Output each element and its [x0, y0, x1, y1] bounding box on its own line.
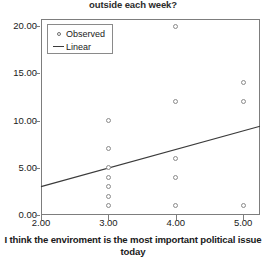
legend-label-linear: Linear — [66, 42, 91, 52]
x-axis-title: I think the enviroment is the most impor… — [2, 234, 264, 258]
legend-item-linear: Linear — [48, 40, 112, 53]
legend-label-observed: Observed — [66, 29, 105, 39]
scatter-plot-chart: How many hours do you spend outside each… — [0, 0, 266, 260]
open-circle-marker-icon — [51, 32, 66, 36]
linear-fit-line — [0, 0, 266, 260]
legend-item-observed: Observed — [48, 27, 112, 40]
regression-line — [41, 126, 260, 186]
chart-legend: Observed Linear — [47, 24, 113, 54]
line-marker-icon — [51, 46, 66, 47]
